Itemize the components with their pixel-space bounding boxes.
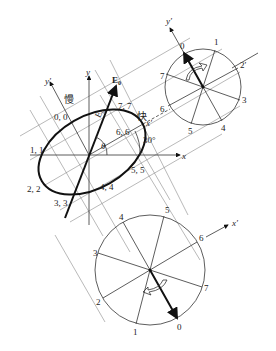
bottom-circle <box>95 215 228 325</box>
x-prime-label: x′ <box>145 118 153 128</box>
top-point-1: 1 <box>214 37 219 47</box>
point-3-3: 3, 3 <box>54 198 68 208</box>
point-1-1: 1, 1 <box>30 145 44 155</box>
x-label: x <box>181 151 186 161</box>
top-point-0: 0 <box>180 41 185 51</box>
top-circle-axis-label: y′ <box>165 16 173 26</box>
angle-30-label: 30° <box>143 135 156 145</box>
bottom-point-4: 4 <box>119 212 124 222</box>
projection-lines-bottom <box>30 60 200 322</box>
top-point-2: 2′ <box>240 60 247 70</box>
point-5-5: 5, 5 <box>131 165 145 175</box>
point-2-2: 2, 2 <box>27 184 41 194</box>
top-point-3: 3 <box>242 95 247 105</box>
point-0-0: 0, 0 <box>54 112 68 122</box>
point-6-6: 6, 6 <box>116 127 130 137</box>
top-circle <box>165 28 241 125</box>
top-point-5: 5 <box>188 126 193 136</box>
bottom-point-7: 7 <box>204 283 209 293</box>
rotation-arrow-icon <box>186 63 207 80</box>
top-point-7: 7 <box>160 71 165 81</box>
angle-30-arc <box>135 131 140 155</box>
y-label: y <box>85 67 90 77</box>
birefringence-diagram: 慢 快 x y y′ x′ E0 θ 30° E₀ 0, 0 1, 1 2, 2… <box>0 0 276 351</box>
e0-label: E0 <box>112 75 121 86</box>
top-point-6: 6 <box>160 104 165 114</box>
bottom-point-3: 3 <box>93 248 98 258</box>
bottom-point-5: 5 <box>165 205 170 215</box>
theta-label: θ <box>101 141 106 151</box>
point-4-4: 4, 4 <box>100 182 114 192</box>
bottom-point-0: 0 <box>177 322 182 332</box>
bottom-point-6: 6 <box>199 233 204 243</box>
slow-label: 慢 <box>64 94 74 105</box>
bottom-circle-axis-label: x′ <box>231 218 239 228</box>
bottom-point-2: 2 <box>96 297 101 307</box>
top-point-4: 4 <box>221 123 226 133</box>
bottom-point-1: 1 <box>133 327 138 337</box>
point-7-7: 7, 7 <box>118 101 132 111</box>
y-prime-label: y′ <box>44 76 52 86</box>
